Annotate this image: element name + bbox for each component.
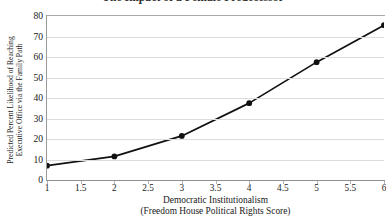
x-axis-tick-label: 4.5: [277, 183, 289, 194]
y-axis-tick-label: 20: [21, 134, 43, 144]
y-axis-tick-label: 10: [21, 155, 43, 165]
x-axis-tick-label: 4: [247, 183, 252, 194]
x-axis-tick-mark: [216, 181, 217, 184]
chart-figure: The Impact of a Female Predecessor Execu…: [0, 0, 386, 220]
y-axis-tick-label: 40: [21, 93, 43, 103]
gridline: [47, 98, 384, 99]
y-axis-tick-label: 60: [21, 52, 43, 62]
x-axis-title-line1: Democratic Institutionalism: [47, 195, 384, 206]
y-axis-tick-label: 50: [21, 73, 43, 83]
data-point-marker: [314, 59, 320, 65]
x-axis-tick-mark: [114, 181, 115, 184]
data-point-marker: [112, 154, 118, 160]
data-point-marker: [246, 100, 252, 106]
x-axis-tick-mark: [350, 181, 351, 184]
x-axis-tick-label: 3: [179, 183, 184, 194]
gridline: [47, 160, 384, 161]
y-axis-tick-label: 80: [21, 11, 43, 21]
x-axis-tick-label: 1.5: [75, 183, 87, 194]
x-axis-title-line2: (Freedom House Political Rights Score): [47, 206, 384, 217]
x-axis-tick-mark: [148, 181, 149, 184]
x-axis-tick-mark: [81, 181, 82, 184]
x-axis-tick-mark: [283, 181, 284, 184]
x-axis-tick-mark: [182, 181, 183, 184]
x-axis-tick-mark: [317, 181, 318, 184]
x-axis-tick-mark: [384, 181, 385, 184]
x-axis-tick-label: 5.5: [344, 183, 356, 194]
gridline: [47, 119, 384, 120]
x-axis-tick-label: 1: [45, 183, 50, 194]
x-axis-tick-label: 2: [112, 183, 117, 194]
gridline: [47, 139, 384, 140]
gridline: [47, 57, 384, 58]
plot-area: [47, 16, 384, 180]
y-axis-tick-label: 70: [21, 32, 43, 42]
series-polyline: [47, 25, 384, 165]
chart-title: The Impact of a Female Predecessor: [0, 0, 386, 3]
gridline: [47, 78, 384, 79]
y-axis-title-line1: Predicted Percent Likelihood of Reaching: [6, 36, 15, 163]
x-axis-title: Democratic Institutionalism (Freedom Hou…: [47, 195, 384, 218]
x-axis-tick-mark: [249, 181, 250, 184]
y-axis-tick-label: 30: [21, 114, 43, 124]
gridline: [47, 37, 384, 38]
x-axis-tick-label: 2.5: [142, 183, 154, 194]
x-axis-tick-mark: [47, 181, 48, 184]
data-point-marker: [179, 133, 185, 139]
x-axis-tick-label: 5: [314, 183, 319, 194]
x-axis-tick-label: 6: [382, 183, 386, 194]
x-axis-tick-label: 3.5: [210, 183, 222, 194]
data-point-marker: [47, 163, 50, 169]
